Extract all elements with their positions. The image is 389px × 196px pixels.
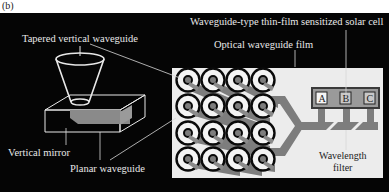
solar-cell-label: Waveguide-type thin-film sensitized sola… xyxy=(190,16,383,27)
planar-waveguide-label: Planar waveguide xyxy=(70,163,145,174)
vertical-mirror-label: Vertical mirror xyxy=(8,147,71,158)
diagram-svg: A B C Tapered vertical waveguide Wavegui… xyxy=(0,0,389,196)
cell-a-label: A xyxy=(319,93,327,104)
wavelength-filter-label-line2: filter xyxy=(333,162,353,173)
tapered-vertical-waveguide-label: Tapered vertical waveguide xyxy=(22,33,138,44)
wavelength-filter-label-line1: Wavelength xyxy=(319,150,367,161)
cell-c-label: C xyxy=(367,93,374,104)
optical-waveguide-film-label: Optical waveguide film xyxy=(214,39,313,50)
solar-cell: A B C xyxy=(312,88,379,108)
